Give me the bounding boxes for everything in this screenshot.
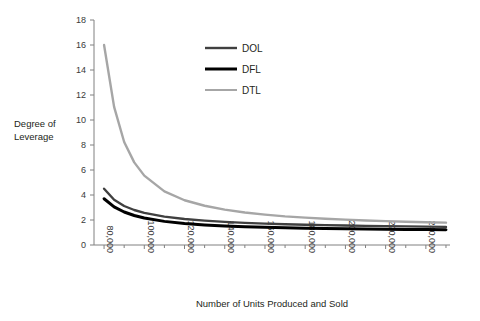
x-tick-label: 100,000	[146, 220, 156, 253]
y-tick-label: 10	[76, 115, 86, 125]
y-axis-title-line2: Leverage	[14, 131, 54, 142]
legend-label-dfl: DFL	[242, 64, 261, 75]
legend-item-dfl: DFL	[205, 64, 261, 75]
legend-label-dtl: DTL	[242, 85, 261, 96]
x-axis-title: Number of Units Produced and Sold	[196, 298, 348, 309]
legend-label-dol: DOL	[242, 43, 263, 54]
x-tick-label: 240,000	[427, 220, 437, 253]
legend-item-dol: DOL	[205, 43, 263, 54]
legend-item-dtl: DTL	[205, 85, 261, 96]
y-tick-label: 12	[76, 90, 86, 100]
y-tick-label: 16	[76, 40, 86, 50]
y-tick-label: 0	[81, 240, 86, 250]
series-line-dtl	[104, 45, 446, 223]
y-tick-label: 4	[81, 190, 86, 200]
x-tick-label: 160,000	[266, 220, 276, 253]
y-tick-label: 6	[81, 165, 86, 175]
y-axis-title-line1: Degree of	[14, 118, 56, 129]
leverage-line-chart: 02468101214161880,000100,000120,000140,0…	[0, 0, 480, 321]
y-tick-label: 14	[76, 65, 86, 75]
y-tick-label: 18	[76, 15, 86, 25]
y-tick-label: 2	[81, 215, 86, 225]
x-tick-label: 80,000	[105, 225, 115, 253]
y-tick-label: 8	[81, 140, 86, 150]
chart-canvas: 02468101214161880,000100,000120,000140,0…	[0, 0, 480, 321]
